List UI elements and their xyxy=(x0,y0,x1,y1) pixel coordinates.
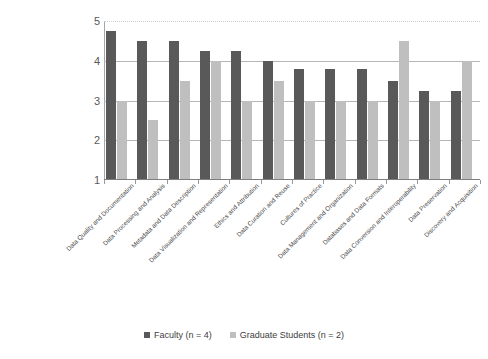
bar-graduate xyxy=(462,61,472,180)
bar-graduate xyxy=(242,101,252,181)
bar-faculty xyxy=(200,51,210,180)
legend-item: Faculty (n = 4) xyxy=(144,330,212,340)
bar-faculty xyxy=(231,51,241,180)
bar-graduate xyxy=(430,101,440,181)
bar-group xyxy=(355,21,386,180)
bar-group xyxy=(198,21,229,180)
y-tick-label: 5 xyxy=(78,16,100,27)
x-category-label: Metadata and Data Description xyxy=(130,182,198,250)
bar-group xyxy=(135,21,166,180)
bar-group xyxy=(417,21,448,180)
legend-swatch-grad xyxy=(230,332,236,338)
x-category-label: Data Curation and Reuse xyxy=(235,182,292,239)
x-category-label: Data Processing and Analysis xyxy=(101,182,166,247)
bar-faculty xyxy=(325,69,335,180)
bar-graduate xyxy=(368,101,378,181)
bars-layer xyxy=(104,21,480,180)
x-category-label: Databases and Data Formats xyxy=(321,182,386,247)
bar-group xyxy=(292,21,323,180)
bar-graduate xyxy=(180,81,190,180)
bar-group xyxy=(104,21,135,180)
bar-graduate xyxy=(148,120,158,180)
legend-item: Graduate Students (n = 2) xyxy=(230,330,344,340)
bar-chart: 12345 Data Quality and DocumentationData… xyxy=(0,0,488,359)
bar-group xyxy=(449,21,480,180)
legend-label: Faculty (n = 4) xyxy=(154,330,212,340)
bar-graduate xyxy=(211,61,221,180)
y-tick-label: 4 xyxy=(78,56,100,67)
bar-faculty xyxy=(419,91,429,180)
bar-faculty xyxy=(169,41,179,180)
bar-group xyxy=(323,21,354,180)
bar-faculty xyxy=(263,61,273,180)
chart-legend: Faculty (n = 4)Graduate Students (n = 2) xyxy=(0,330,488,340)
legend-label: Graduate Students (n = 2) xyxy=(240,330,344,340)
bar-graduate xyxy=(399,41,409,180)
bar-graduate xyxy=(336,101,346,181)
bar-group xyxy=(229,21,260,180)
bar-faculty xyxy=(106,31,116,180)
bar-faculty xyxy=(451,91,461,180)
x-category-label: Discovery and Acquisition xyxy=(423,182,480,239)
bar-group xyxy=(167,21,198,180)
x-axis-category-labels: Data Quality and DocumentationData Proce… xyxy=(0,180,488,320)
y-tick-label: 3 xyxy=(78,96,100,107)
bar-graduate xyxy=(117,101,127,181)
bar-faculty xyxy=(137,41,147,180)
bar-graduate xyxy=(274,81,284,180)
bar-graduate xyxy=(305,101,315,181)
plot-area xyxy=(104,21,480,180)
bar-faculty xyxy=(388,81,398,180)
bar-faculty xyxy=(357,69,367,180)
y-tick-label: 2 xyxy=(78,135,100,146)
bar-group xyxy=(386,21,417,180)
bar-group xyxy=(261,21,292,180)
bar-faculty xyxy=(294,69,304,180)
legend-swatch-faculty xyxy=(144,332,150,338)
